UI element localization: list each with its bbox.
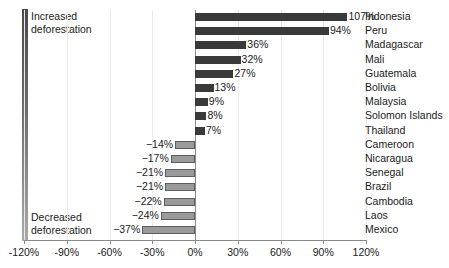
bar-row: 8% bbox=[24, 109, 366, 123]
country-label: Guatemala bbox=[365, 66, 416, 80]
bar bbox=[195, 56, 241, 64]
bar-value-label: −24% bbox=[132, 208, 159, 222]
bar-value-label: 8% bbox=[207, 108, 222, 122]
country-label: Thailand bbox=[365, 123, 405, 137]
bar-row: −22% bbox=[24, 195, 366, 209]
axis-tick bbox=[323, 240, 324, 244]
axis-tick bbox=[195, 240, 196, 244]
x-axis-tick-label: 90% bbox=[313, 246, 334, 258]
bar-value-label: −37% bbox=[113, 222, 140, 236]
country-label: Senegal bbox=[365, 165, 404, 179]
bar-value-label: 13% bbox=[215, 80, 236, 94]
bar-row: 7% bbox=[24, 124, 366, 138]
bar bbox=[195, 70, 233, 78]
bar-row: −21% bbox=[24, 166, 366, 180]
country-label: Mali bbox=[365, 52, 384, 66]
country-label: Solomon Islands bbox=[365, 108, 443, 122]
x-axis-tick-label: -30% bbox=[140, 246, 165, 258]
bar bbox=[165, 183, 195, 191]
bar-value-label: 9% bbox=[209, 94, 224, 108]
bar bbox=[142, 226, 195, 234]
country-label: Laos bbox=[365, 208, 388, 222]
country-label: Cameroon bbox=[365, 137, 414, 151]
axis-tick bbox=[366, 240, 367, 244]
bar-value-label: 32% bbox=[242, 52, 263, 66]
bar-value-label: 94% bbox=[330, 23, 351, 37]
country-label: Mexico bbox=[365, 222, 398, 236]
bar-row: −37% bbox=[24, 223, 366, 237]
bar bbox=[195, 27, 329, 35]
bar-row: −24% bbox=[24, 209, 366, 223]
country-label: Malaysia bbox=[365, 94, 406, 108]
bar bbox=[195, 84, 214, 92]
bar-row: 36% bbox=[24, 38, 366, 52]
bar-row: −17% bbox=[24, 152, 366, 166]
bar-value-label: −14% bbox=[146, 137, 173, 151]
x-axis-tick-label: -120% bbox=[9, 246, 39, 258]
bar bbox=[195, 13, 347, 21]
axis-tick bbox=[110, 240, 111, 244]
axis-tick bbox=[281, 240, 282, 244]
country-label: Peru bbox=[365, 23, 387, 37]
country-label: Cambodia bbox=[365, 194, 413, 208]
bar bbox=[195, 127, 205, 135]
plot-area: 107%94%36%32%27%13%9%8%7%−14%−17%−21%−21… bbox=[24, 10, 366, 240]
x-axis-tick-label: -60% bbox=[97, 246, 122, 258]
bar-value-label: 27% bbox=[234, 66, 255, 80]
bar-row: 27% bbox=[24, 67, 366, 81]
deforestation-bar-chart: Increased deforestation Decreased defore… bbox=[0, 0, 449, 268]
bar bbox=[195, 41, 246, 49]
x-axis-tick-label: 0% bbox=[187, 246, 202, 258]
bar-row: 9% bbox=[24, 95, 366, 109]
bar-row: −14% bbox=[24, 138, 366, 152]
axis-tick bbox=[67, 240, 68, 244]
bar-value-label: 36% bbox=[247, 37, 268, 51]
bar bbox=[171, 155, 195, 163]
country-label: Indonesia bbox=[365, 9, 411, 23]
axis-tick bbox=[24, 240, 25, 244]
bar bbox=[195, 98, 208, 106]
bar-value-label: −21% bbox=[136, 165, 163, 179]
bar-value-label: −22% bbox=[135, 194, 162, 208]
bar-value-label: 7% bbox=[206, 123, 221, 137]
bar bbox=[165, 169, 195, 177]
country-label: Madagascar bbox=[365, 37, 423, 51]
bar-row: 13% bbox=[24, 81, 366, 95]
bar-value-label: −21% bbox=[136, 179, 163, 193]
bar-row: −21% bbox=[24, 180, 366, 194]
country-label: Brazil bbox=[365, 179, 391, 193]
x-axis-tick-label: 60% bbox=[270, 246, 291, 258]
axis-tick bbox=[152, 240, 153, 244]
x-axis-tick-label: -90% bbox=[54, 246, 79, 258]
bar-row: 94% bbox=[24, 24, 366, 38]
axis-tick bbox=[238, 240, 239, 244]
bar bbox=[161, 212, 195, 220]
bar bbox=[195, 112, 206, 120]
bar-row: 32% bbox=[24, 53, 366, 67]
x-axis-tick-label: 30% bbox=[227, 246, 248, 258]
bar bbox=[164, 198, 195, 206]
bar-row: 107% bbox=[24, 10, 366, 24]
x-axis-tick-label: 120% bbox=[353, 246, 380, 258]
bar-value-label: −17% bbox=[142, 151, 169, 165]
country-label: Bolivia bbox=[365, 80, 396, 94]
country-label: Nicaragua bbox=[365, 151, 413, 165]
bar bbox=[175, 141, 195, 149]
